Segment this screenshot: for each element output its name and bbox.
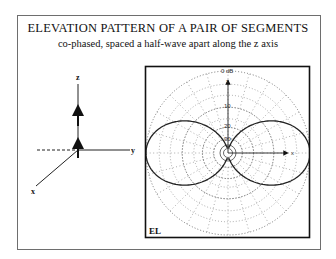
x-axis-label: x [31, 187, 35, 196]
plot-frame [146, 67, 310, 238]
z-axis-label: z [76, 73, 80, 82]
axes-diagram: z y x [31, 73, 135, 196]
plane-label: EL [149, 226, 161, 236]
plot-x-label: x [291, 150, 294, 156]
figure-canvas: z y x 0 dB z x 10 20 30 EL [0, 0, 336, 259]
ring-label-20: 20 [224, 123, 231, 129]
ring-label-30: 30 [224, 136, 231, 142]
y-axis-label: y [131, 146, 135, 155]
ring-label-10: 10 [224, 103, 231, 109]
ref-db-label: 0 dB [221, 68, 233, 74]
plot-z-label: z [226, 78, 229, 84]
x-axis-line [36, 150, 78, 186]
